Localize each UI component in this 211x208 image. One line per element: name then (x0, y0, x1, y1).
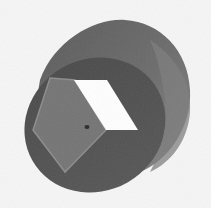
cylinder-render (0, 0, 211, 208)
grain-overlay (0, 0, 211, 208)
rendered-scene (0, 0, 211, 208)
